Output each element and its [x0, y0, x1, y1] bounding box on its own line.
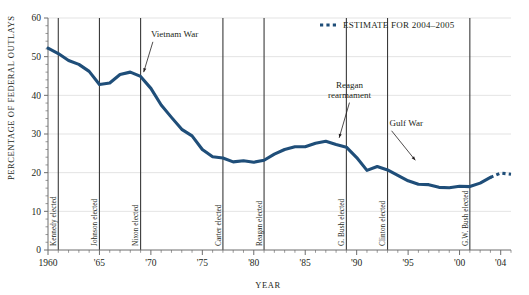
x-tick-label: '75	[197, 258, 208, 268]
y-tick-label: 50	[32, 52, 42, 62]
event-label-kennedy-elected: Kennedy elected	[50, 196, 58, 246]
annotation-gulf-war: Gulf War	[390, 118, 423, 128]
event-label-johnson-elected: Johnson elected	[91, 198, 99, 246]
event-label-nixon-elected: Nixon elected	[132, 204, 140, 246]
x-tick-label: '85	[300, 258, 311, 268]
defense-outlays-chart: 0102030405060 1960'65'70'75'80'85'90'95'…	[0, 0, 529, 295]
x-tick-label: '00	[454, 258, 465, 268]
y-tick-label: 40	[32, 91, 42, 101]
x-tick-label: '65	[94, 258, 105, 268]
x-tick-label: '80	[248, 258, 259, 268]
x-tick-label: '70	[145, 258, 156, 268]
y-tick-label: 0	[36, 245, 41, 255]
legend-label-estimate-legend: ESTIMATE FOR 2004–2005	[343, 20, 455, 30]
y-axis-title: PERCENTAGE OF FEDERAL OUTLAYS	[6, 15, 16, 180]
event-label-reagan-elected: Reagan elected	[256, 201, 264, 246]
y-tick-label: 20	[32, 168, 42, 178]
y-tick-label: 30	[32, 129, 42, 139]
y-tick-label: 60	[32, 13, 42, 23]
event-label-clinton-elected: Clinton elected	[379, 200, 387, 246]
event-label-gw-bush-elected: G.W. Bush elected	[462, 190, 470, 246]
chart-canvas: 0102030405060 1960'65'70'75'80'85'90'95'…	[0, 0, 529, 295]
x-axis-title: YEAR	[255, 280, 280, 290]
annotation-vietnam-war: Vietnam War	[151, 29, 198, 39]
x-tick-label: '95	[403, 258, 414, 268]
event-label-carter-elected: Carter elected	[215, 204, 223, 246]
x-tick-label: 1960	[39, 258, 58, 268]
x-tick-label: '90	[351, 258, 362, 268]
y-tick-label: 10	[32, 207, 42, 217]
x-tick-label: '04	[495, 258, 506, 268]
event-label-g-bush-elected: G. Bush elected	[338, 198, 346, 246]
